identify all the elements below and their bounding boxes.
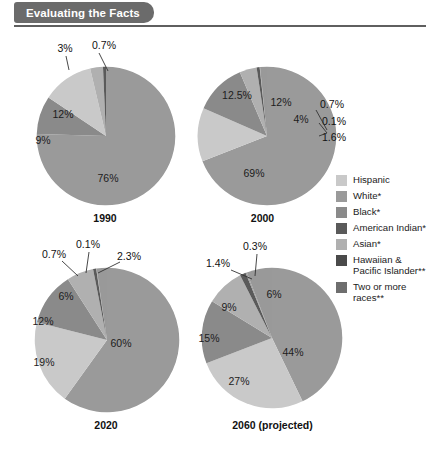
legend-swatch-icon	[336, 191, 347, 202]
slice-label-2020-1: 19%	[33, 356, 54, 368]
legend-label: White*	[353, 190, 381, 201]
slice-label-2000-4: 0.7%	[320, 98, 344, 110]
legend-item: Hawaiian & Pacific Islander**	[336, 254, 440, 277]
chart-2020: 60% 19% 12% 6% 0.7% 0.1% 2.3% 2020	[16, 235, 196, 435]
legend-swatch-icon	[336, 223, 347, 234]
chart-2060: 44% 27% 15% 9% 1.4% 0.3% 6% 2060 (projec…	[185, 235, 360, 435]
slice-label-2000-1: 12.5%	[222, 89, 252, 101]
year-label-1990: 1990	[20, 212, 190, 224]
pie-2020	[34, 267, 180, 413]
chart-2000: 69% 12.5% 12% 4% 0.7% 0.1% 1.6% 2000	[175, 40, 350, 230]
slice-label-1990-1: 9%	[35, 134, 50, 146]
slice-label-2060-0: 44%	[282, 346, 303, 358]
legend-item: Asian*	[336, 238, 440, 250]
legend-item: Black*	[336, 206, 440, 218]
slice-label-2000-0: 69%	[243, 167, 264, 179]
legend-item: Two or more races**	[336, 281, 440, 304]
legend-label: Two or more races**	[353, 281, 406, 304]
slice-label-2000-5: 0.1%	[322, 115, 346, 127]
legend-swatch-icon	[336, 282, 347, 293]
slice-label-2000-6: 1.6%	[322, 131, 346, 143]
legend-item: Hispanic	[336, 174, 440, 186]
slice-label-1990-3: 3%	[57, 42, 72, 54]
slice-label-2060-6: 6%	[266, 288, 281, 300]
chart-1990: 76% 9% 12% 3% 0.7% 1990	[20, 40, 190, 230]
year-label-2060: 2060 (projected)	[185, 419, 360, 431]
legend-swatch-icon	[336, 207, 347, 218]
page-title: Evaluating the Facts	[26, 7, 140, 19]
legend-label: American Indian*	[353, 222, 426, 233]
year-label-2000: 2000	[175, 212, 350, 224]
slice-label-2020-0: 60%	[110, 337, 131, 349]
slice-label-2020-4: 0.7%	[42, 248, 66, 260]
year-label-2020: 2020	[16, 419, 196, 431]
legend-label: Hispanic	[353, 174, 390, 185]
legend-swatch-icon	[336, 255, 347, 266]
slice-label-1990-2: 12%	[52, 108, 73, 120]
page-header: Evaluating the Facts	[0, 0, 440, 30]
pie-chart-grid: 76% 9% 12% 3% 0.7% 1990 69% 12.5% 12% 4%…	[0, 30, 335, 461]
header-tab: Evaluating the Facts	[14, 2, 154, 23]
pie-2000	[197, 66, 337, 206]
legend-item: American Indian*	[336, 222, 440, 234]
slice-label-2020-2: 12%	[32, 315, 53, 327]
slice-label-2060-5: 0.3%	[243, 240, 267, 252]
legend-swatch-icon	[336, 239, 347, 250]
slice-label-2060-3: 9%	[221, 301, 236, 313]
slice-label-1990-4: 0.7%	[92, 39, 116, 51]
slice-label-1990-0: 76%	[97, 172, 118, 184]
slice-label-2020-3: 6%	[58, 290, 73, 302]
pie-2020-svg	[34, 267, 180, 413]
legend-swatch-icon	[336, 175, 347, 186]
slice-label-2060-2: 15%	[198, 332, 219, 344]
legend: HispanicWhite*Black*American Indian*Asia…	[336, 174, 440, 308]
legend-label: Black*	[353, 206, 380, 217]
slice-label-2020-6: 2.3%	[117, 250, 141, 262]
slice-label-2060-4: 1.4%	[206, 257, 230, 269]
legend-label: Asian*	[353, 238, 381, 249]
pie-2000-svg	[197, 66, 337, 206]
slice-label-2020-5: 0.1%	[76, 238, 100, 250]
pie-1990-svg	[36, 66, 176, 206]
slice-label-2000-2: 12%	[270, 96, 291, 108]
legend-label: Hawaiian & Pacific Islander**	[353, 254, 426, 277]
slice-label-2000-3: 4%	[293, 113, 308, 125]
header-divider	[14, 25, 426, 27]
legend-item: White*	[336, 190, 440, 202]
slice-label-2060-1: 27%	[228, 375, 249, 387]
pie-1990	[36, 66, 176, 206]
